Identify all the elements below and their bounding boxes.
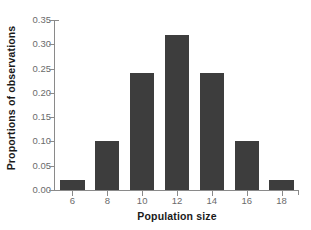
x-axis-tick-label: 14	[207, 196, 218, 206]
x-axis-tick-label: 6	[70, 196, 75, 206]
bar	[165, 35, 189, 190]
y-axis-tick-mark	[49, 44, 54, 45]
bar	[269, 180, 293, 190]
x-axis-tick-label: 12	[172, 196, 183, 206]
x-axis-tick-label: 10	[137, 196, 148, 206]
bar	[60, 180, 84, 190]
bar	[95, 141, 119, 190]
y-axis-tick-mark	[49, 69, 54, 70]
y-axis-tick-mark	[49, 93, 54, 94]
x-axis-tick-mark	[282, 191, 283, 196]
y-axis-title-text: Proportions of observations	[5, 26, 17, 171]
x-axis-tick-mark	[107, 191, 108, 196]
x-axis-tick-mark	[142, 191, 143, 196]
x-axis-title: Population size	[55, 210, 299, 222]
y-axis-tick-mark	[49, 141, 54, 142]
y-axis-tick-mark	[49, 117, 54, 118]
y-axis-tick-mark	[49, 20, 54, 21]
x-axis-tick-label: 18	[276, 196, 287, 206]
x-axis-tick-mark	[247, 191, 248, 196]
bar	[235, 141, 259, 190]
bar	[130, 73, 154, 190]
x-axis-tick-labels: 681012141618	[55, 196, 299, 210]
x-axis-tick-label: 16	[241, 196, 252, 206]
bar-chart-figure: Proportions of observations 0.000.050.10…	[0, 0, 311, 230]
x-axis-tick-mark	[212, 191, 213, 196]
x-axis-tick-mark	[72, 191, 73, 196]
bar	[200, 73, 224, 190]
y-axis-tick-labels: 0.000.050.100.150.200.250.300.35	[18, 0, 51, 200]
x-axis-tick-mark	[177, 191, 178, 196]
y-axis-tick-mark	[49, 166, 54, 167]
x-axis-end-cap	[298, 190, 299, 195]
plot-area	[55, 20, 299, 190]
x-axis-tick-label: 8	[105, 196, 110, 206]
y-axis-tick-mark	[49, 190, 54, 191]
